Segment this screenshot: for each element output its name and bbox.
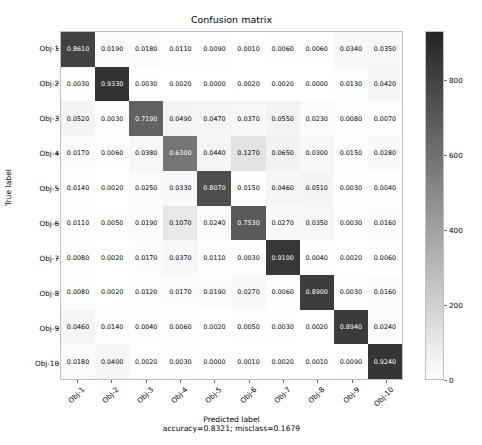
matrix-cell: 0.0030	[129, 67, 163, 102]
matrix-cell: 0.0080	[334, 101, 368, 136]
matrix-cell: 0.7530	[231, 206, 265, 241]
matrix-cell: 0.0420	[368, 67, 402, 102]
matrix-cell: 0.0040	[300, 240, 334, 275]
x-tick-mark	[111, 380, 112, 383]
colorbar-tick-mark	[444, 80, 447, 81]
matrix-cell: 0.0240	[368, 310, 402, 345]
matrix-cell: 0.0460	[266, 171, 300, 206]
matrix-cell: 0.0350	[368, 32, 402, 67]
x-tick-mark	[77, 380, 78, 383]
y-tick-label: Obj-3	[3, 114, 59, 123]
matrix-cell: 0.9100	[266, 240, 300, 275]
matrix-cell: 0.0170	[163, 275, 197, 310]
matrix-cell: 0.0400	[95, 344, 129, 379]
matrix-cell: 0.0020	[95, 240, 129, 275]
matrix-cell: 0.0080	[61, 275, 95, 310]
matrix-cell: 0.0370	[163, 240, 197, 275]
matrix-cell: 0.0070	[368, 101, 402, 136]
colorbar-tick-label: 200	[449, 300, 463, 309]
matrix-cell: 0.9240	[368, 344, 402, 379]
matrix-cell: 0.0030	[334, 206, 368, 241]
matrix-cell: 0.0550	[266, 101, 300, 136]
matrix-cell: 0.0350	[300, 206, 334, 241]
matrix-cell: 0.0160	[368, 206, 402, 241]
matrix-cell: 0.0060	[266, 32, 300, 67]
matrix-cell: 0.0020	[129, 344, 163, 379]
colorbar-tick-label: 600	[449, 150, 463, 159]
matrix-cell: 0.0520	[61, 101, 95, 136]
matrix-cell: 0.0380	[129, 136, 163, 171]
matrix-cell: 0.0020	[266, 344, 300, 379]
matrix-cell: 0.0030	[61, 67, 95, 102]
matrix-cell: 0.0080	[61, 240, 95, 275]
matrix-cell: 0.0030	[163, 344, 197, 379]
matrix-plot-area: 0.86100.01900.01800.01100.00900.00100.00…	[60, 31, 403, 380]
colorbar-tick-label: 0	[449, 376, 454, 385]
matrix-cell: 0.9330	[95, 67, 129, 102]
matrix-cell: 0.0650	[266, 136, 300, 171]
matrix-cell: 0.0120	[129, 275, 163, 310]
matrix-cell: 0.0020	[266, 67, 300, 102]
colorbar-tick-mark	[444, 155, 447, 156]
matrix-cell: 0.0300	[300, 136, 334, 171]
x-axis-ticks: Obj-1Obj-2Obj-3Obj-4Obj-5Obj-6Obj-7Obj-8…	[60, 380, 403, 414]
confusion-matrix-figure: Confusion matrix True label Obj-1Obj-2Ob…	[0, 0, 482, 445]
y-tick-label: Obj-5	[3, 184, 59, 193]
x-tick-mark	[249, 380, 250, 383]
matrix-cell: 0.0470	[197, 101, 231, 136]
matrix-cell: 0.8610	[61, 32, 95, 67]
matrix-cell: 0.0330	[163, 171, 197, 206]
matrix-cell: 0.0030	[334, 275, 368, 310]
colorbar-tick-mark	[444, 380, 447, 381]
matrix-cell: 0.1270	[231, 136, 265, 171]
x-tick-mark	[283, 380, 284, 383]
matrix-cell: 0.0060	[300, 32, 334, 67]
matrix-cell: 0.0110	[163, 32, 197, 67]
matrix-cell: 0.0150	[231, 171, 265, 206]
matrix-cell: 0.0090	[197, 32, 231, 67]
matrix-cell: 0.0110	[197, 240, 231, 275]
matrix-cell: 0.0250	[129, 171, 163, 206]
matrix-cell: 0.0050	[95, 206, 129, 241]
matrix-cell: 0.0020	[95, 275, 129, 310]
matrix-cell: 0.0160	[368, 275, 402, 310]
matrix-cell: 0.0050	[231, 310, 265, 345]
matrix-cell: 0.8070	[197, 171, 231, 206]
matrix-cell: 0.0000	[300, 67, 334, 102]
matrix-cell: 0.0030	[266, 310, 300, 345]
matrix-cell: 0.0240	[197, 206, 231, 241]
matrix-cell: 0.0020	[334, 240, 368, 275]
matrix-cell: 0.0010	[300, 344, 334, 379]
x-axis-label: Predicted label	[60, 415, 403, 424]
matrix-cell: 0.0510	[300, 171, 334, 206]
matrix-cell: 0.0020	[231, 67, 265, 102]
matrix-cell: 0.0060	[95, 136, 129, 171]
matrix-cell: 0.8900	[300, 275, 334, 310]
matrix-cell: 0.0490	[163, 101, 197, 136]
matrix-cell: 0.0190	[129, 206, 163, 241]
y-tick-label: Obj-4	[3, 149, 59, 158]
y-tick-label: Obj-10	[3, 358, 59, 367]
colorbar-tick-mark	[444, 230, 447, 231]
matrix-cell: 0.0270	[231, 275, 265, 310]
matrix-cell: 0.0130	[334, 67, 368, 102]
matrix-cell: 0.0090	[334, 344, 368, 379]
matrix-cell: 0.0280	[368, 136, 402, 171]
matrix-cell: 0.0150	[334, 136, 368, 171]
matrix-cell: 0.0040	[129, 310, 163, 345]
matrix-cell: 0.0140	[95, 310, 129, 345]
matrix-cell: 0.0170	[129, 240, 163, 275]
x-tick-mark	[352, 380, 353, 383]
matrix-cell: 0.0180	[61, 344, 95, 379]
matrix-cell: 0.0190	[197, 275, 231, 310]
y-tick-label: Obj-8	[3, 288, 59, 297]
matrix-cell: 0.0060	[368, 240, 402, 275]
y-tick-label: Obj-1	[3, 44, 59, 53]
matrix-cell: 0.0460	[61, 310, 95, 345]
matrix-cell: 0.0040	[368, 171, 402, 206]
matrix-cell: 0.0000	[197, 67, 231, 102]
matrix-cell: 0.0020	[95, 171, 129, 206]
matrix-cell: 0.0190	[95, 32, 129, 67]
matrix-cell: 0.8940	[334, 310, 368, 345]
y-tick-label: Obj-7	[3, 253, 59, 262]
